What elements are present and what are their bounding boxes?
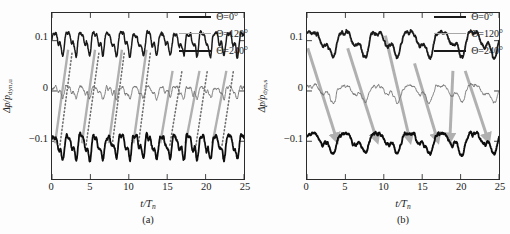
y-axis-title-sub: dyn,s: [261, 80, 269, 95]
x-tick-label: 10: [123, 182, 134, 193]
y-axis-title-b: Δp/pdyn,s: [257, 80, 269, 113]
legend-item: Θ=240°: [434, 42, 503, 59]
x-tick-label: 15: [417, 182, 428, 193]
y-tick-label: −0.1: [257, 133, 303, 144]
y-tick-label: 0.1: [257, 31, 303, 42]
subcaption-b: (b): [397, 214, 409, 225]
legend-item: Θ=0°: [179, 8, 248, 25]
y-axis-title-sub: dyn,u: [6, 79, 14, 95]
x-axis-title-main: t/T: [140, 198, 152, 209]
x-axis-title-main: t/T: [395, 198, 407, 209]
x-axis-title-sub: n: [407, 202, 411, 211]
figure-container: 0.1 0 −0.1 0 5 10 15 20 25 Δp/pdyn,u t/T…: [0, 0, 510, 234]
x-tick-label: 15: [162, 182, 173, 193]
data-series-line: [52, 85, 244, 100]
legend-b: Θ=0° Θ=120° Θ=240°: [431, 6, 506, 61]
legend-line-swatch: [179, 16, 211, 18]
legend-line-swatch: [179, 50, 211, 52]
x-axis-title-b: t/Tn: [395, 198, 410, 211]
y-tick-label: −0.1: [2, 133, 48, 144]
y-tick-label: 0.1: [2, 31, 48, 42]
x-tick-label: 25: [240, 182, 251, 193]
data-series-line: [52, 132, 244, 161]
x-axis-title-sub: n: [152, 202, 156, 211]
subcaption-a: (a): [142, 214, 154, 225]
x-tick-label: 25: [495, 182, 506, 193]
legend-line-swatch: [179, 33, 211, 34]
x-tick-labels-b: 0 5 10 15 20 25: [306, 182, 500, 198]
legend-item-label: Θ=0°: [471, 11, 493, 22]
y-axis-title-main: Δp/p: [2, 95, 12, 113]
x-tick-labels-a: 0 5 10 15 20 25: [51, 182, 245, 198]
legend-line-swatch: [434, 33, 466, 34]
legend-a: Θ=0° Θ=120° Θ=240°: [176, 6, 251, 61]
legend-item-label: Θ=120°: [216, 28, 248, 39]
x-axis-title-a: t/Tn: [140, 198, 155, 211]
legend-item-label: Θ=120°: [471, 28, 503, 39]
x-tick-label: 10: [378, 182, 389, 193]
x-tick-label: 5: [342, 182, 347, 193]
legend-line-swatch: [434, 50, 466, 52]
legend-item: Θ=120°: [179, 25, 248, 42]
x-tick-label: 20: [456, 182, 467, 193]
legend-line-swatch: [434, 16, 466, 18]
x-tick-label: 0: [48, 182, 53, 193]
legend-item: Θ=0°: [434, 8, 503, 25]
x-tick-label: 5: [87, 182, 92, 193]
x-tick-label: 20: [201, 182, 212, 193]
y-axis-title-main: Δp/p: [257, 95, 267, 113]
legend-item-label: Θ=0°: [216, 11, 238, 22]
legend-item-label: Θ=240°: [216, 45, 248, 56]
legend-item-label: Θ=240°: [471, 45, 503, 56]
legend-item: Θ=240°: [179, 42, 248, 59]
panel-b: 0.1 0 −0.1 0 5 10 15 20 25 Δp/pdyn,s t/T…: [255, 0, 510, 234]
y-axis-title-a: Δp/pdyn,u: [2, 79, 14, 112]
x-tick-label: 0: [303, 182, 308, 193]
legend-item: Θ=120°: [434, 25, 503, 42]
panel-a: 0.1 0 −0.1 0 5 10 15 20 25 Δp/pdyn,u t/T…: [0, 0, 255, 234]
